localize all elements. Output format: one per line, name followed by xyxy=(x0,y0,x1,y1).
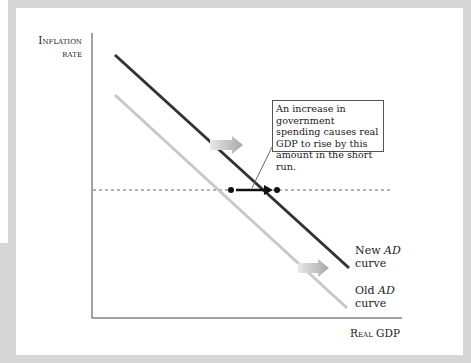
old-ad-label-prefix: Old xyxy=(355,284,378,297)
old-ad-label-curve: curve xyxy=(355,297,395,310)
y-axis-label: Inflation rate xyxy=(30,34,82,60)
new-ad-label-ad: AD xyxy=(384,244,401,257)
new-ad-label-curve: curve xyxy=(355,257,401,270)
shift-arrow-upper xyxy=(210,136,243,154)
x-axis-label: Real GDP xyxy=(340,327,400,340)
shift-arrow-lower xyxy=(298,259,329,277)
new-ad-curve xyxy=(115,55,349,268)
new-ad-label-prefix: New xyxy=(355,244,384,257)
y-axis-label-line1: Inflation xyxy=(30,34,82,47)
old-ad-label: Old AD curve xyxy=(355,284,395,310)
callout-box: An increase in government spending cause… xyxy=(272,100,384,152)
old-equilibrium-point xyxy=(228,187,234,193)
y-axis-label-line2: rate xyxy=(30,47,82,60)
callout-pointer-line xyxy=(252,147,272,188)
new-equilibrium-point xyxy=(274,187,280,193)
old-ad-label-ad: AD xyxy=(378,284,395,297)
new-ad-label: New AD curve xyxy=(355,244,401,270)
